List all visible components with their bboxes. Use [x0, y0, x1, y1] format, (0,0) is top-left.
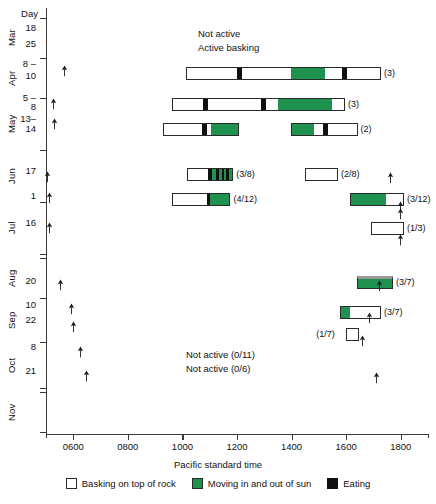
legend-item-black: Eating: [327, 478, 370, 489]
sun-arrow-icon: [60, 65, 69, 77]
legend-item-green: Moving in and out of sun: [192, 478, 312, 489]
sun-arrow-icon: [396, 208, 405, 220]
sun-arrow-icon: [375, 280, 384, 292]
activity-bar-jun-17-a: [187, 168, 233, 181]
day-tick-label: 1: [10, 190, 36, 201]
bar-segment-white: [187, 68, 237, 79]
sun-arrow-icon: [43, 171, 52, 183]
day-tick-label: 25: [10, 38, 36, 49]
bar-segment-white: [332, 99, 344, 110]
sun-arrow-icon: [69, 321, 78, 333]
x-tick: [182, 434, 183, 440]
x-tick-label: 1600: [323, 441, 369, 452]
bar-count-may-5-8: (3): [348, 99, 359, 109]
bar-segment-white: [208, 99, 262, 110]
y-tick: [40, 392, 46, 393]
x-tick: [401, 434, 402, 440]
x-axis-title: Pacific standard time: [0, 459, 436, 470]
x-tick-minor: [428, 434, 429, 438]
activity-bar-may-13-14-b: [291, 123, 358, 136]
activity-bar-apr-10: [186, 67, 381, 80]
x-tick-label: 1000: [159, 441, 205, 452]
sun-arrow-icon: [50, 118, 59, 130]
activity-bar-may-13-14-a: [163, 123, 239, 136]
bar-segment-white: [347, 329, 358, 340]
sun-arrow-icon: [365, 312, 374, 324]
bar-count-jul-1-b: (3/12): [407, 194, 431, 204]
bar-count-jun-17-a: (3/8): [236, 169, 255, 179]
bar-count-jul-16: (1/3): [407, 223, 426, 233]
y-tick: [40, 298, 46, 299]
bar-count-may-13-14-b: (2): [361, 124, 372, 134]
x-tick-label: 1400: [269, 441, 315, 452]
bar-count-apr-10: (3): [384, 68, 395, 78]
annotation-active-basking: Active basking: [198, 42, 259, 53]
bar-segment-green: [341, 307, 351, 318]
bar-segment-white: [325, 68, 342, 79]
bar-segment-white: [314, 124, 324, 135]
legend-item-white: Basking on top of rock: [66, 478, 176, 489]
y-tick: [40, 150, 46, 151]
y-tick: [40, 388, 46, 389]
bar-segment-green: [291, 68, 325, 79]
bar-count-jul-1-a: (4/12): [233, 194, 257, 204]
bar-segment-green: [229, 169, 232, 180]
legend-swatch-green: [192, 478, 203, 489]
annotation-not-active: Not active: [198, 28, 240, 39]
activity-bar-sep-10: [340, 306, 381, 319]
y-tick: [40, 58, 46, 59]
annotation-not-active-0-11: Not active (0/11): [186, 349, 255, 360]
bar-segment-white: [173, 194, 207, 205]
sun-arrow-icon: [67, 303, 76, 315]
x-tick-minor: [46, 434, 47, 438]
chart-legend: Basking on top of rockMoving in and out …: [0, 478, 436, 489]
day-tick-label: 10: [10, 299, 36, 310]
y-tick: [40, 254, 46, 255]
bar-segment-green: [278, 99, 332, 110]
month-label-jul: Jul: [6, 202, 17, 254]
bar-segment-white: [188, 169, 208, 180]
activity-bar-jul-1-a: [172, 193, 230, 206]
legend-label-white: Basking on top of rock: [82, 478, 176, 489]
sun-arrow-icon: [386, 172, 395, 184]
legend-swatch-white: [66, 478, 77, 489]
activity-timeline-chart: Day MarAprMayJunJulAugSepOctNov 18258 –1…: [0, 0, 436, 504]
bar-segment-green: [351, 194, 386, 205]
bar-segment-white: [347, 68, 380, 79]
sun-arrow-icon: [56, 279, 65, 291]
bar-count-sep-10: (3/7): [384, 307, 403, 317]
bar-count-aug-20: (3/7): [396, 277, 415, 287]
day-tick-label: 20: [10, 275, 36, 286]
legend-swatch-black: [327, 478, 338, 489]
x-tick: [346, 434, 347, 440]
day-tick-label: 21: [10, 365, 36, 376]
x-tick: [73, 434, 74, 440]
y-tick: [40, 98, 46, 99]
bar-segment-white: [173, 99, 203, 110]
sun-arrow-icon: [45, 192, 54, 204]
day-tick-label: 10: [10, 70, 36, 81]
annotation-not-active-0-6: Not active (0/6): [186, 363, 250, 374]
sun-arrow-icon: [49, 98, 58, 110]
sun-arrow-icon: [396, 234, 405, 246]
legend-label-black: Eating: [343, 478, 370, 489]
legend-label-green: Moving in and out of sun: [208, 478, 312, 489]
bar-segment-white: [266, 99, 278, 110]
month-label-nov: Nov: [6, 392, 17, 432]
y-tick: [40, 432, 46, 433]
day-tick-label: 8: [10, 101, 36, 112]
bar-segment-green: [210, 194, 229, 205]
bar-segment-white: [372, 223, 403, 234]
activity-bar-may-5-8: [172, 98, 345, 111]
bar-segment-green: [211, 124, 238, 135]
bar-count-jun-17-b: (2/8): [341, 169, 360, 179]
y-tick: [40, 258, 46, 259]
x-tick-label: 0800: [105, 441, 151, 452]
x-tick-label: 1800: [378, 441, 424, 452]
x-tick-label: 1200: [214, 441, 260, 452]
sun-arrow-icon: [45, 222, 54, 234]
x-tick-label: 0600: [50, 441, 96, 452]
day-tick-label: 8: [10, 341, 36, 352]
sun-arrow-icon: [372, 372, 381, 384]
bar-segment-white: [306, 169, 337, 180]
